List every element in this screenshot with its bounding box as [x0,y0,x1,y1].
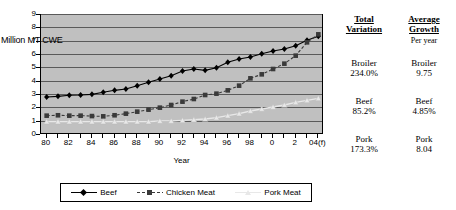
data-point-marker [248,76,253,81]
data-point-marker [282,46,287,52]
x-axis-tick-mark [148,134,149,138]
data-point-marker [293,53,298,58]
stats-header-growth: Average Growth [396,14,452,34]
x-axis-tick-mark [57,134,58,138]
y-axis-tick-mark [36,67,40,68]
x-axis-tick-mark [193,134,194,138]
data-point-marker [191,66,196,72]
legend-item-beef[interactable]: Beef [71,188,116,197]
data-point-marker [192,97,197,102]
stats-header-total: Total Variation [336,14,392,34]
series-plot [41,15,324,135]
y-axis-tick-label: 4 [20,77,36,85]
x-axis-labels: 808284868890929496980204(f) [0,139,340,151]
data-point-marker [101,89,106,95]
data-point-marker [169,103,174,108]
data-point-marker [237,83,242,88]
chart-page: Million MT CWE 808284868890929496980204(… [0,0,456,210]
legend-label: Pork Meat [264,189,300,197]
x-axis-tick-mark [238,134,239,138]
data-point-marker [101,114,106,119]
legend-item-pork-meat[interactable]: Pork Meat [235,188,300,197]
stats-cell-growth: Pork8.04 [396,134,452,154]
y-axis-tick-label: 7 [20,37,36,45]
data-point-marker [180,99,185,104]
legend-item-chicken-meat[interactable]: Chicken Meat [137,188,215,197]
data-point-marker [259,51,264,57]
data-point-marker [270,48,275,54]
x-axis-tick-mark [215,134,216,138]
chart-area: Million MT CWE 808284868890929496980204(… [0,0,330,210]
y-axis-tick-label: 2 [20,103,36,111]
y-axis-tick-label: 0 [20,130,36,138]
data-point-marker [78,113,83,118]
y-axis-tick-label: 5 [20,63,36,71]
data-point-marker [78,92,83,98]
data-point-marker [157,76,162,82]
y-axis-tick-label: 6 [20,50,36,58]
y-axis-tick-label: 9 [20,10,36,18]
data-point-marker [44,113,49,118]
data-point-marker [248,54,253,60]
stats-value: 9.75 [396,68,452,78]
y-axis-tick-label: 1 [20,117,36,125]
y-axis-tick-label: 8 [20,23,36,31]
stats-header-growth-line2: Growth [409,24,439,34]
x-axis-tick-mark [80,134,81,138]
data-point-marker [146,79,151,85]
data-point-marker [214,91,219,96]
data-point-marker [316,32,321,37]
stats-label: Broiler [336,58,392,68]
x-axis-title: Year [40,157,323,165]
y-axis-tick-label: 3 [20,90,36,98]
y-axis-tick-mark [36,27,40,28]
legend-label: Chicken Meat [166,189,215,197]
stats-label: Pork [336,134,392,144]
stats-header-growth-sub: Per year [396,36,452,45]
data-point-marker [180,68,185,74]
data-point-marker [90,114,95,119]
y-axis-tick-mark [36,41,40,42]
data-point-marker [203,93,208,98]
stats-cell-total: Pork173.3% [336,134,392,154]
data-point-marker [44,94,49,100]
x-axis-tick-mark [125,134,126,138]
data-point-marker [169,73,174,79]
data-point-marker [89,91,94,97]
stats-header-total-line1: Total [354,14,374,24]
data-point-marker [67,92,72,98]
data-point-marker [158,105,163,110]
data-point-marker [305,40,310,45]
data-point-marker [225,88,230,93]
stats-label: Pork [396,134,452,144]
data-point-marker [293,43,298,49]
y-axis-tick-mark [36,54,40,55]
chart-legend: BeefChicken MeatPork Meat [60,183,312,202]
stats-header-total-line2: Variation [346,24,382,34]
data-point-marker [203,67,208,73]
stats-label: Beef [336,96,392,106]
series-line [47,36,319,97]
y-axis-tick-mark [36,81,40,82]
stats-label: Broiler [396,58,452,68]
x-axis-tick-mark [170,134,171,138]
stats-cell-growth: Beef4.85% [396,96,452,116]
legend-label: Beef [100,189,116,197]
data-point-marker [56,113,61,118]
stats-value: 4.85% [396,106,452,116]
stats-cell-growth: Broiler9.75 [396,58,452,78]
stats-label: Beef [396,96,452,106]
data-point-marker [146,107,151,112]
data-point-marker [225,59,230,65]
stats-table: Total Variation Average Growth Per year … [334,0,456,210]
x-axis-tick-mark [102,134,103,138]
stats-value: 85.2% [336,106,392,116]
data-point-marker [55,93,60,99]
y-axis-tick-mark [36,121,40,122]
data-point-marker [214,65,219,71]
legend-key-icon [235,188,261,197]
x-axis-tick-mark [283,134,284,138]
stats-cell-total: Beef85.2% [336,96,392,116]
data-point-marker [112,113,117,118]
stats-header-growth-line1: Average [408,14,439,24]
